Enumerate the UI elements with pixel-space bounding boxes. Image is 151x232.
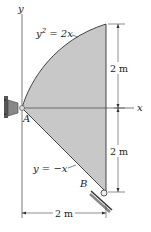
plate-diagram: y x y2 = 2x y = −x A B 2 m 2 m 2 m	[0, 0, 151, 232]
roller-support-B	[90, 190, 112, 212]
parabola-leader	[72, 35, 78, 37]
lower-height-dimension: 2 m	[110, 146, 128, 157]
line-equation-label: y = −x	[32, 163, 68, 174]
x-axis-label: x	[137, 102, 143, 113]
parabola-equation-label: y2 = 2x	[35, 27, 73, 39]
width-dimension: 2 m	[55, 208, 73, 219]
pin-support-A	[4, 96, 25, 118]
line-leader	[68, 165, 76, 168]
point-B-label: B	[79, 178, 87, 189]
y-axis-label: y	[17, 3, 24, 14]
point-A-label: A	[22, 113, 30, 124]
upper-height-dimension: 2 m	[110, 63, 128, 74]
